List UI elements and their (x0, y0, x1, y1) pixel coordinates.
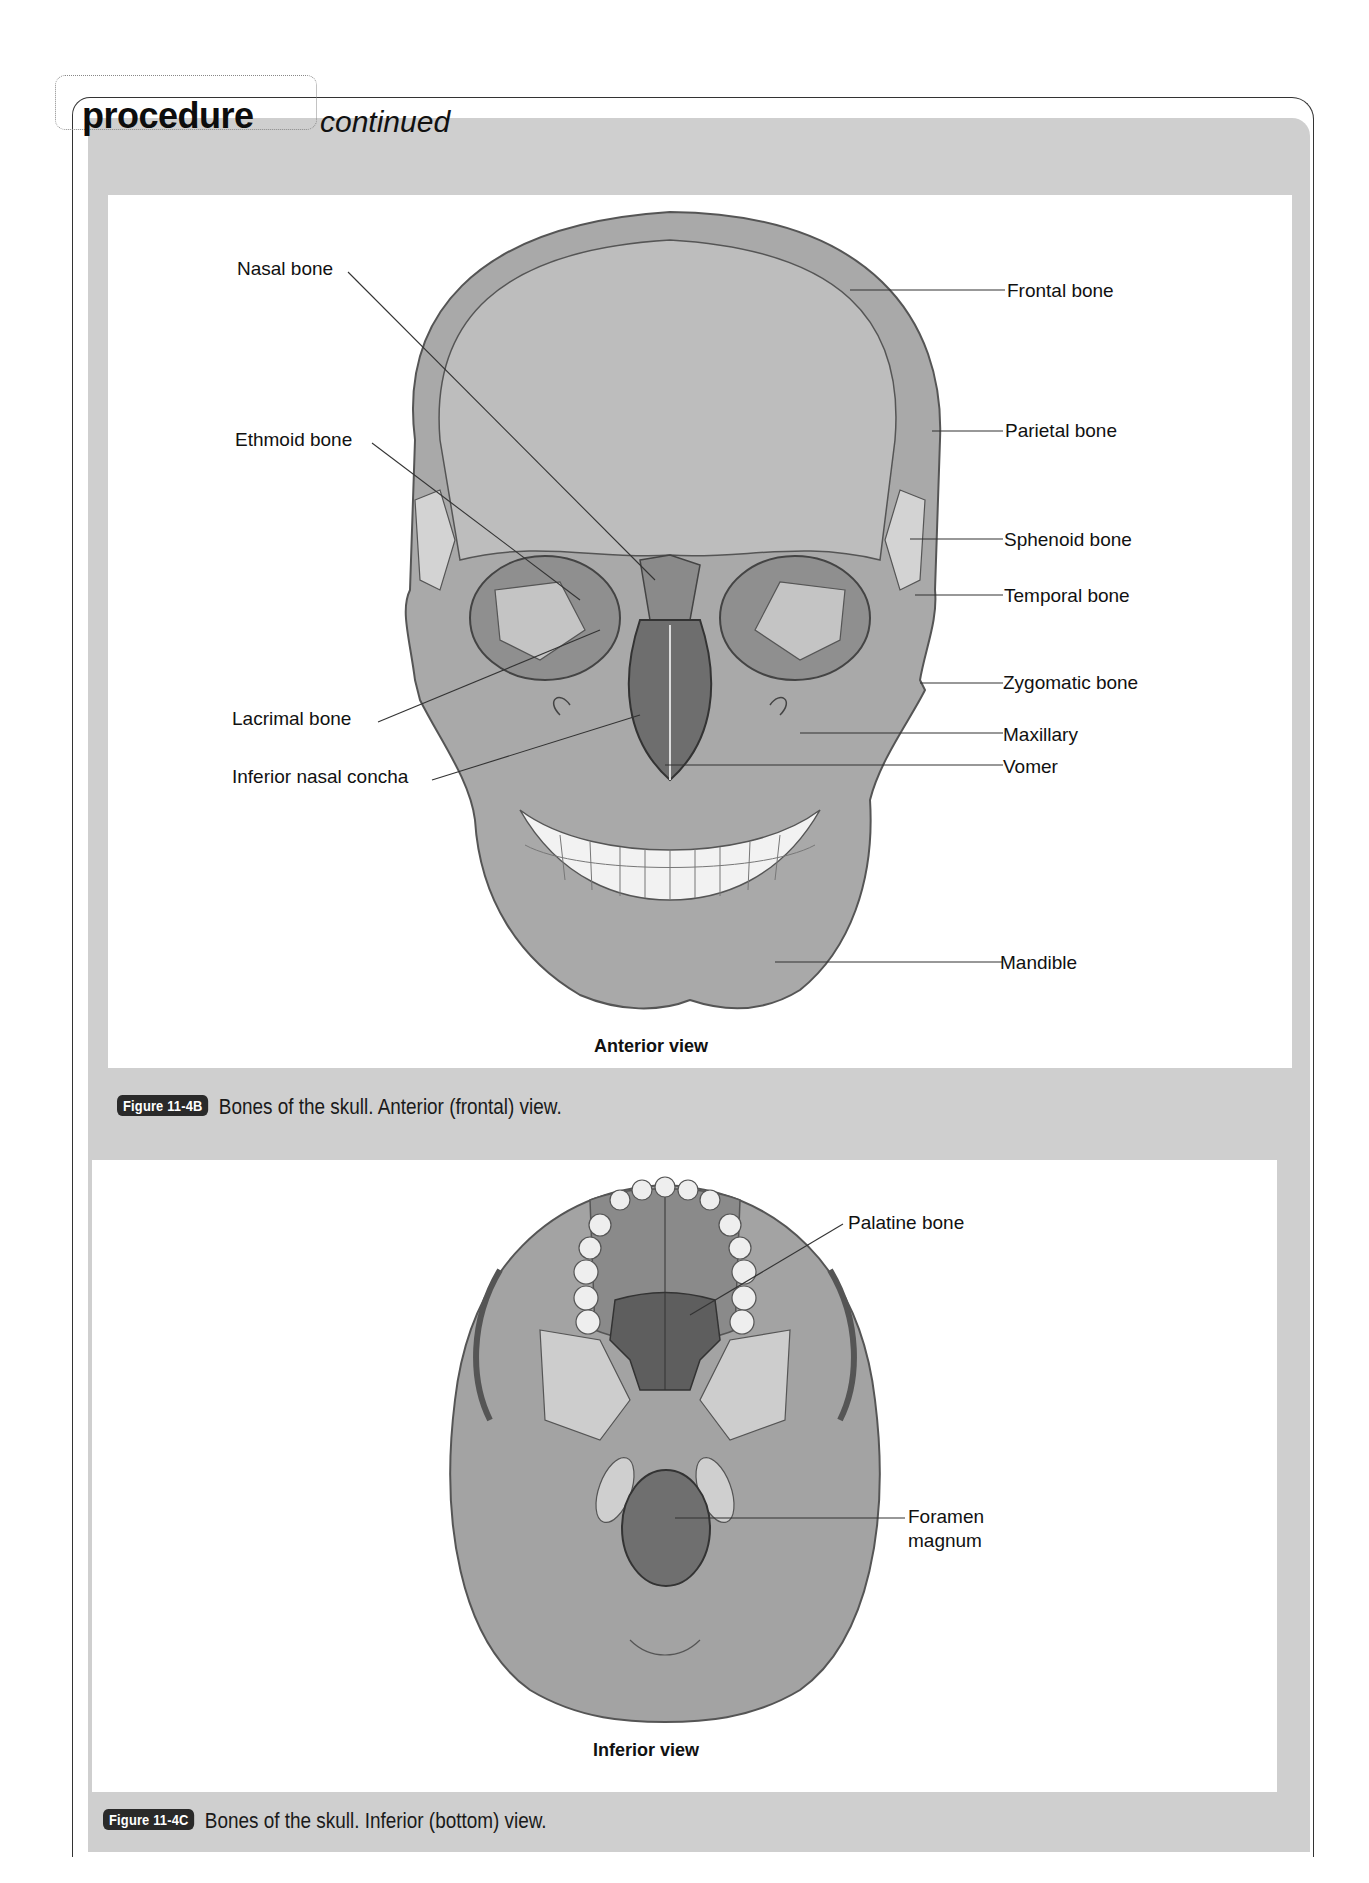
caption-text: Bones of the skull. Inferior (bottom) vi… (205, 1808, 547, 1833)
figure-badge: Figure 11-4C (103, 1809, 195, 1830)
inferior-skull-illustration (0, 0, 1369, 1883)
label-foramen-magnum-line2: magnum (908, 1530, 982, 1552)
figure-11-4c-caption: Figure 11-4CBones of the skull. Inferior… (103, 1808, 547, 1834)
label-foramen-magnum-line1: Foramen (908, 1506, 984, 1528)
label-palatine-bone: Palatine bone (848, 1212, 964, 1234)
inferior-view-title: Inferior view (593, 1740, 699, 1761)
